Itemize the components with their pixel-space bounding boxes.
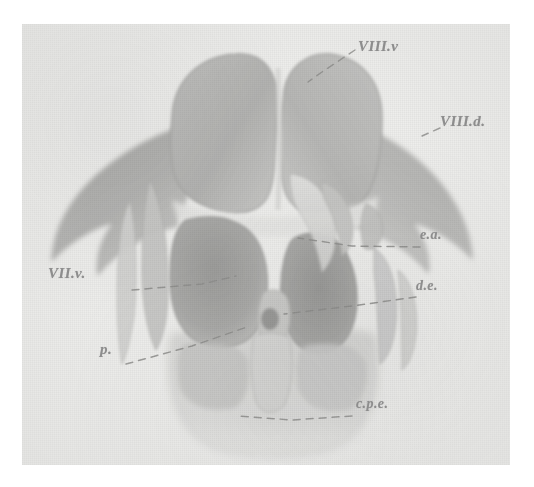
label-cpe: c.p.e. bbox=[356, 396, 388, 412]
figure-root: VIII.v VIII.d. e.a. d.e. VII.v. p. c.p.e… bbox=[0, 0, 534, 487]
label-de: d.e. bbox=[416, 278, 438, 294]
anatomical-drawing bbox=[22, 24, 510, 465]
leader-viii-d bbox=[422, 128, 440, 136]
region-lower-left-block bbox=[179, 343, 247, 408]
scanned-plate bbox=[22, 24, 510, 465]
label-viii-v: VIII.v bbox=[358, 38, 398, 55]
label-ea: e.a. bbox=[420, 227, 442, 243]
label-viii-d: VIII.d. bbox=[440, 113, 485, 130]
label-vii-v: VII.v. bbox=[48, 265, 86, 282]
region-left-central-lobe bbox=[170, 217, 268, 348]
midline-tubercle bbox=[261, 308, 279, 330]
region-dorsal-paired-lobes bbox=[171, 54, 382, 214]
label-p: p. bbox=[100, 341, 112, 358]
